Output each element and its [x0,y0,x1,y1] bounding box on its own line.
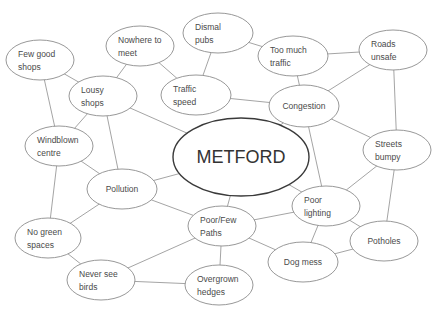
mind-map-diagram: METFORDFew goodshopsNowhere tomeetDismal… [0,0,437,316]
node-congestion: Congestion [269,85,339,127]
node-label: Streets [375,139,402,149]
node-ellipse [106,26,174,66]
node-label: unsafe [371,52,397,62]
node-label: Dismal [195,22,221,32]
node-label: Pollution [106,184,139,194]
node-streets-bumpy: Streetsbumpy [363,130,431,170]
node-potholes: Potholes [350,221,418,261]
node-ellipse [6,40,74,80]
node-label: Potholes [367,236,400,246]
node-label: lighting [304,208,331,218]
node-ellipse [188,206,256,246]
node-label: Few good [18,49,56,59]
node-label: Dog mess [284,257,322,267]
node-label: birds [79,282,97,292]
node-poor-few-paths: Poor/FewPaths [188,206,256,246]
node-label: shops [81,98,104,108]
node-ellipse [67,260,135,300]
node-label: Poor/Few [200,215,237,225]
node-label: Nowhere to [118,35,162,45]
node-traffic-speed: Trafficspeed [161,75,231,115]
node-ellipse [161,75,231,115]
node-label: Windblown [37,135,79,145]
node-label: spaces [27,240,54,250]
node-label: bumpy [375,152,401,162]
node-ellipse [183,13,253,53]
node-dismal-pubs: Dismalpubs [183,13,253,53]
node-ellipse [185,265,253,305]
node-dog-mess: Dog mess [268,242,338,282]
node-overgrown-hedges: Overgrownhedges [185,265,253,305]
node-label: Too much [270,45,307,55]
node-label: Poor [304,195,322,205]
node-label: traffic [270,58,291,68]
node-label: Traffic [173,84,197,94]
node-too-much-traffic: Too muchtraffic [258,36,328,76]
node-few-good-shops: Few goodshops [6,40,74,80]
node-poor-lighting: Poorlighting [292,186,360,226]
node-label: meet [118,48,138,58]
node-label: pubs [195,35,213,45]
node-lousy-shops: Lousyshops [69,76,137,116]
node-ellipse [15,218,81,258]
central-node-metford: METFORD [173,118,309,196]
node-ellipse [69,76,137,116]
node-pollution: Pollution [87,169,157,209]
node-label: Roads [371,39,396,49]
node-roads-unsafe: Roadsunsafe [359,30,427,70]
node-ellipse [292,186,360,226]
node-label: METFORD [197,147,286,167]
node-nowhere-to-meet: Nowhere tomeet [106,26,174,66]
node-label: Never see [79,269,118,279]
node-windblown-centre: Windblowncentre [25,126,93,166]
node-ellipse [258,36,328,76]
node-no-green-spaces: No greenspaces [15,218,81,258]
node-label: hedges [197,287,225,297]
node-label: Congestion [282,101,325,111]
node-label: Paths [200,228,222,238]
node-label: shops [18,62,41,72]
node-label: Lousy [81,85,104,95]
node-label: centre [37,148,61,158]
node-never-see-birds: Never seebirds [67,260,135,300]
node-label: Overgrown [197,274,239,284]
node-label: No green [27,227,62,237]
node-label: speed [173,97,196,107]
nodes: METFORDFew goodshopsNowhere tomeetDismal… [6,13,431,305]
node-ellipse [359,30,427,70]
node-ellipse [363,130,431,170]
node-ellipse [25,126,93,166]
